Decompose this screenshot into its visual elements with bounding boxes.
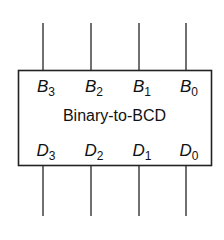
input-label-b2: B2 — [85, 78, 103, 98]
input-label-b1: B1 — [133, 78, 151, 98]
output-label-d0: D0 — [180, 142, 199, 162]
output-label-d3: D3 — [37, 142, 56, 162]
output-label-d1: D1 — [133, 142, 152, 162]
block-title: Binary-to-BCD — [18, 108, 211, 124]
input-label-b0: B0 — [180, 78, 198, 98]
output-label-d2: D2 — [85, 142, 104, 162]
input-label-b3: B3 — [37, 78, 55, 98]
